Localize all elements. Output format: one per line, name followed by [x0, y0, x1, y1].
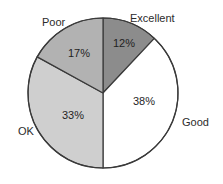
slice-label-poor: Poor: [42, 17, 65, 28]
pie-chart-svg: [0, 0, 223, 184]
slice-label-ok: OK: [18, 126, 34, 137]
slice-value-poor: 17%: [68, 48, 90, 59]
pie-wedge-group: [28, 18, 178, 168]
pie-chart: Excellent Good OK Poor 12% 38% 33% 17%: [0, 0, 223, 184]
slice-value-good: 38%: [133, 96, 155, 107]
slice-value-excellent: 12%: [113, 38, 135, 49]
slice-value-ok: 33%: [62, 110, 84, 121]
slice-label-excellent: Excellent: [130, 13, 175, 24]
slice-label-good: Good: [182, 117, 209, 128]
